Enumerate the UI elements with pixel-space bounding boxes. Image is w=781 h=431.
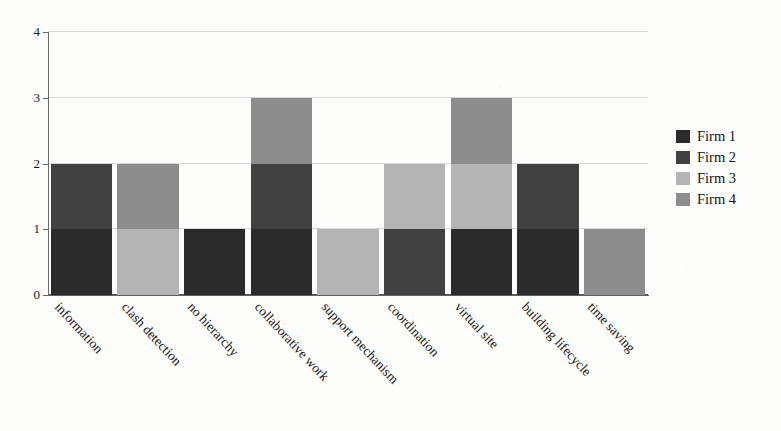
- bar-segment[interactable]: [451, 164, 513, 230]
- bar-segment[interactable]: [451, 98, 513, 164]
- x-axis-line: [48, 295, 649, 296]
- bar-segment[interactable]: [517, 229, 579, 295]
- bar-segment[interactable]: [517, 164, 579, 230]
- legend-swatch-icon: [676, 151, 690, 164]
- bar-segment[interactable]: [451, 229, 513, 295]
- legend-swatch-icon: [676, 172, 690, 185]
- chart-legend: Firm 1Firm 2Firm 3Firm 4: [676, 126, 776, 210]
- bar-group[interactable]: [184, 229, 246, 295]
- y-tick-mark-1: [43, 229, 49, 230]
- bar-group[interactable]: [517, 164, 579, 296]
- stacked-bar-chart: 01234 informationclash detectionno hiera…: [0, 0, 781, 431]
- x-tick-label: coordination: [385, 300, 441, 359]
- legend-swatch-icon: [676, 193, 690, 206]
- bar-group[interactable]: [317, 229, 379, 295]
- x-tick-label: building lifecycle: [519, 300, 594, 379]
- bar-segment[interactable]: [51, 229, 113, 295]
- legend-swatch-icon: [676, 130, 690, 143]
- y-tick-label-2: 2: [20, 157, 40, 170]
- x-tick-label: clash detection: [119, 300, 184, 368]
- bar-segment[interactable]: [384, 229, 446, 295]
- bar-segment[interactable]: [117, 229, 179, 295]
- bar-segment[interactable]: [51, 164, 113, 230]
- bar-group[interactable]: [384, 164, 446, 296]
- bar-segment[interactable]: [251, 98, 313, 164]
- y-tick-label-4: 4: [20, 25, 40, 38]
- bar-segment[interactable]: [584, 229, 646, 295]
- bar-group[interactable]: [51, 164, 113, 296]
- y-tick-label-3: 3: [20, 91, 40, 104]
- legend-item-firm-3[interactable]: Firm 3: [676, 168, 776, 189]
- legend-label: Firm 4: [697, 192, 736, 207]
- bar-segment[interactable]: [251, 229, 313, 295]
- y-tick-label-0: 0: [20, 288, 40, 301]
- y-tick-label-1: 1: [20, 222, 40, 235]
- x-tick-label: virtual site: [452, 300, 501, 351]
- x-tick-label: collaborative work: [252, 300, 331, 384]
- bar-segment[interactable]: [317, 229, 379, 295]
- legend-item-firm-2[interactable]: Firm 2: [676, 147, 776, 168]
- y-tick-mark-3: [43, 98, 49, 99]
- legend-item-firm-4[interactable]: Firm 4: [676, 189, 776, 210]
- plot-area: [48, 32, 648, 295]
- bar-group[interactable]: [251, 98, 313, 295]
- gridline-4: [48, 31, 648, 32]
- bar-group[interactable]: [451, 98, 513, 295]
- x-tick-label: no hierarchy: [185, 300, 241, 359]
- y-tick-mark-0: [43, 295, 49, 296]
- x-tick-label: information: [52, 300, 105, 356]
- bar-segment[interactable]: [251, 164, 313, 230]
- legend-item-firm-1[interactable]: Firm 1: [676, 126, 776, 147]
- legend-label: Firm 3: [697, 171, 736, 186]
- y-tick-mark-4: [43, 32, 49, 33]
- bar-segment[interactable]: [117, 164, 179, 230]
- bar-segment[interactable]: [384, 164, 446, 230]
- gridline-3: [48, 97, 648, 98]
- bar-group[interactable]: [117, 164, 179, 296]
- bar-group[interactable]: [584, 229, 646, 295]
- legend-label: Firm 1: [697, 129, 736, 144]
- x-tick-label: time saving: [585, 300, 638, 355]
- y-tick-mark-2: [43, 164, 49, 165]
- bar-segment[interactable]: [184, 229, 246, 295]
- legend-label: Firm 2: [697, 150, 736, 165]
